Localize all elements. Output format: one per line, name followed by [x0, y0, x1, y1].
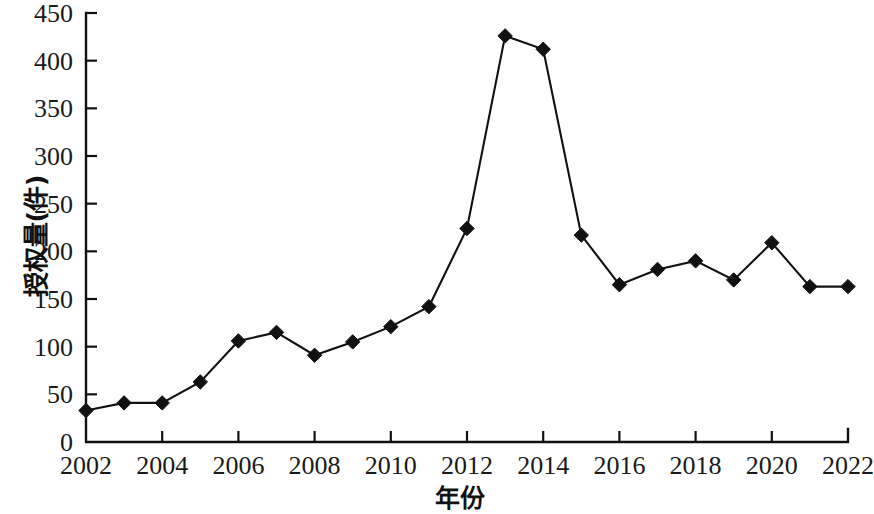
x-tick-label: 2014 — [517, 451, 569, 480]
y-tick-label: 50 — [47, 380, 73, 409]
x-tick-label: 2008 — [289, 451, 341, 480]
y-tick-label: 250 — [34, 190, 73, 219]
x-tick-label: 2006 — [212, 451, 264, 480]
x-tick-label: 2010 — [365, 451, 417, 480]
x-tick-label: 2012 — [441, 451, 493, 480]
data-point-marker — [498, 29, 512, 43]
data-point-marker — [841, 279, 855, 293]
x-tick-label: 2018 — [670, 451, 722, 480]
data-point-marker — [460, 221, 474, 235]
data-point-marker — [155, 396, 169, 410]
y-tick-label: 200 — [34, 237, 73, 266]
data-point-marker — [384, 319, 398, 333]
y-tick-label: 300 — [34, 142, 73, 171]
data-point-marker — [117, 396, 131, 410]
y-tick-label: 450 — [34, 0, 73, 28]
data-point-markers — [79, 29, 855, 418]
data-point-marker — [536, 42, 550, 56]
y-tick-label: 400 — [34, 47, 73, 76]
x-tick-label: 2004 — [136, 451, 188, 480]
data-point-marker — [269, 325, 283, 339]
data-point-marker — [422, 299, 436, 313]
x-axis-tick-labels: 2002200420062008201020122014201620182020… — [60, 451, 874, 480]
y-axis-tick-labels: 050100150200250300350400450 — [34, 0, 73, 457]
x-axis-ticks — [162, 431, 772, 442]
x-tick-label: 2016 — [593, 451, 645, 480]
y-tick-label: 150 — [34, 285, 73, 314]
y-axis-ticks — [86, 13, 97, 394]
data-point-marker — [307, 348, 321, 362]
x-tick-label: 2002 — [60, 451, 112, 480]
data-point-marker — [79, 403, 93, 417]
y-tick-label: 350 — [34, 94, 73, 123]
x-tick-label: 2020 — [746, 451, 798, 480]
data-point-marker — [650, 262, 664, 276]
data-point-marker — [688, 254, 702, 268]
y-tick-label: 100 — [34, 333, 73, 362]
data-point-marker — [346, 335, 360, 349]
x-tick-label: 2022 — [822, 451, 874, 480]
